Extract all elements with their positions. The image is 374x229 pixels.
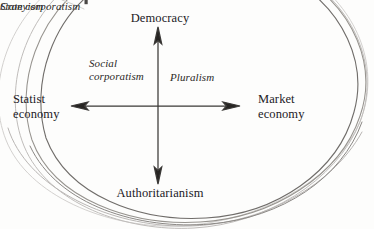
figure-canvas: Democracy Authoritarianism Statist econo… (0, 0, 374, 229)
quadrant-label-cronyism: Cronyism (0, 0, 43, 13)
quadrant-label-social-corporatism-line1: Social (89, 57, 117, 69)
quadrant-label-social-corporatism-line2: corporatism (89, 70, 144, 82)
quadrant-label-social-corporatism: Social corporatism (89, 57, 155, 84)
axis-label-statist-economy: Statist economy (13, 92, 75, 123)
quadrant-label-pluralism: Pluralism (170, 71, 236, 84)
axis-label-democracy: Democracy (112, 11, 208, 26)
axis-label-market-economy: Market economy (258, 92, 330, 123)
axis-label-market-line1: Market (258, 92, 295, 106)
quadrant-label-pluralism-line1: Pluralism (170, 71, 214, 83)
axis-label-statist-line1: Statist (13, 92, 45, 106)
axis-label-statist-line2: economy (13, 107, 60, 121)
quadrant-label-cronyism-line1: Cronyism (0, 0, 43, 12)
axis-label-authoritarianism: Authoritarianism (101, 186, 219, 201)
axis-label-market-line2: economy (258, 107, 305, 121)
